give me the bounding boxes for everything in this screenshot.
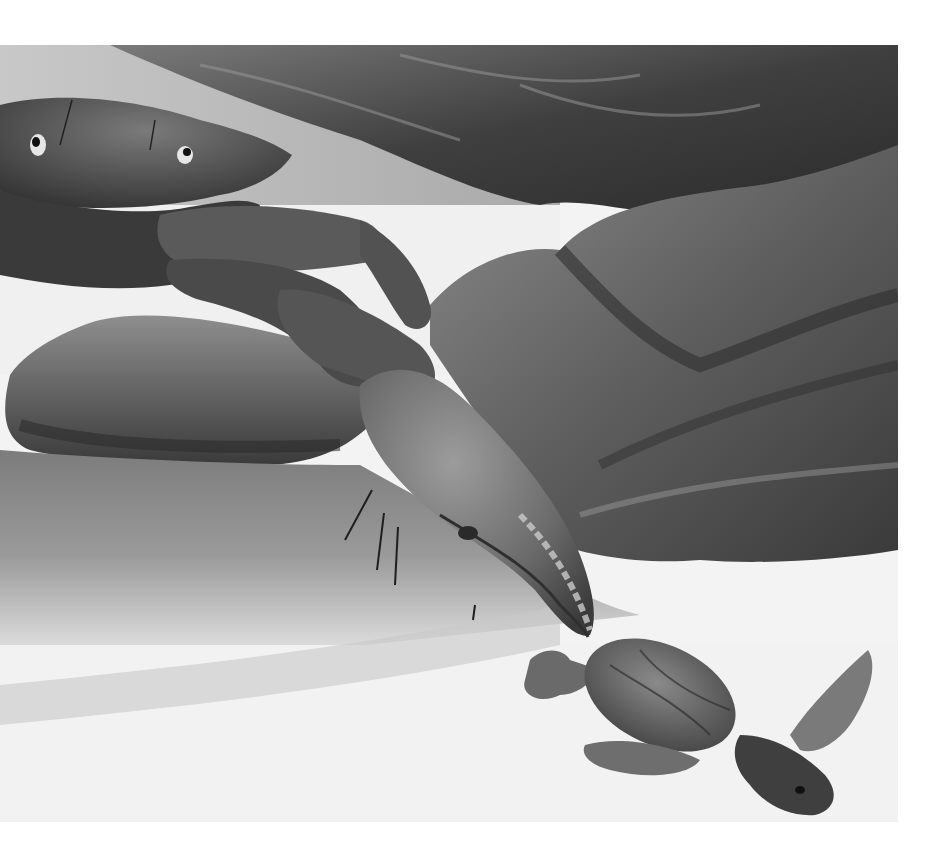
scene-svg — [0, 45, 898, 822]
turtle-eye — [795, 786, 805, 794]
illustration — [0, 45, 898, 822]
